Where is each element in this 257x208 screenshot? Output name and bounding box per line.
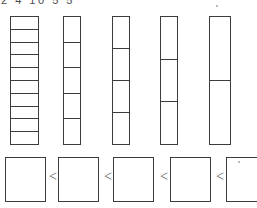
answer-box-3[interactable] (113, 157, 154, 202)
bar-segment (10, 80, 39, 94)
header-numbers-label: 2 4 10 5 5 (1, 0, 121, 7)
bar-segment (10, 131, 39, 145)
bar-segment (63, 118, 81, 145)
bar-segment (209, 80, 231, 145)
compare-operator-2: < (102, 170, 114, 184)
bar-segment (112, 16, 130, 49)
worksheet-canvas: { "header": { "numbers_label": "2 4 10 5… (0, 0, 257, 208)
bar-segment (63, 16, 81, 43)
bar-segment (63, 42, 81, 69)
bar-segment (112, 48, 130, 81)
bar-column-2 (63, 16, 81, 145)
bar-segment (10, 54, 39, 68)
scan-speck-2 (216, 5, 218, 7)
answer-box-5[interactable] (226, 157, 257, 202)
compare-operator-4: < (214, 170, 226, 184)
bar-column-4 (160, 16, 178, 145)
bar-segment (160, 59, 178, 103)
comparison-row: <<<< (0, 157, 257, 205)
bar-segment (10, 16, 39, 30)
answer-box-4[interactable] (170, 157, 211, 202)
bar-segment (10, 42, 39, 56)
bar-segment (112, 112, 130, 145)
bar-segment (63, 67, 81, 94)
bar-column-3 (112, 16, 130, 145)
compare-operator-3: < (158, 170, 170, 184)
bar-segment (10, 67, 39, 81)
bar-segment (112, 80, 130, 113)
bar-segment (63, 93, 81, 120)
bar-segment (10, 93, 39, 107)
bar-model-group (0, 12, 257, 145)
compare-operator-1: < (47, 170, 59, 184)
bar-segment (10, 29, 39, 43)
answer-box-1[interactable] (5, 157, 46, 202)
bar-segment (10, 106, 39, 120)
bar-segment (209, 16, 231, 81)
bar-segment (160, 101, 178, 145)
scan-speck-1 (238, 161, 240, 163)
answer-box-2[interactable] (58, 157, 99, 202)
bar-column-5 (209, 16, 231, 145)
bar-segment (160, 16, 178, 60)
bar-column-1 (10, 16, 39, 145)
bar-segment (10, 118, 39, 132)
